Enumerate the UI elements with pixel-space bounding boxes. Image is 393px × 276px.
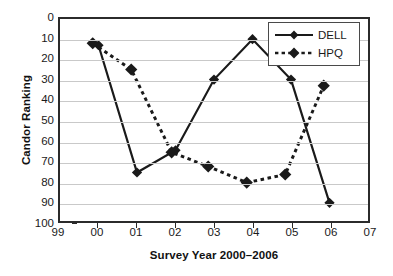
chart-figure: Candor Ranking 0102030405060708090100 99… <box>0 0 393 276</box>
x-axis-ticks: 990001020304050607 <box>58 226 370 242</box>
y-tick-label: 80 <box>20 176 54 187</box>
y-tick-label: 10 <box>20 32 54 43</box>
legend-label-hpq: HPQ <box>314 47 343 59</box>
gridline <box>60 81 368 82</box>
x-tick-mark <box>253 223 254 228</box>
y-tick-label: 90 <box>20 197 54 208</box>
legend-item-hpq: HPQ <box>274 44 354 62</box>
y-tick-label: 20 <box>20 53 54 64</box>
y-tick-label: 40 <box>20 94 54 105</box>
data-point-hpq <box>241 177 253 189</box>
y-tick-mark <box>72 223 77 224</box>
x-tick-mark <box>214 223 215 228</box>
y-tick-label: 60 <box>20 135 54 146</box>
x-tick-mark <box>331 223 332 228</box>
y-tick-label: 0 <box>20 12 54 23</box>
y-axis-ticks: 0102030405060708090100 <box>14 17 54 223</box>
data-point-hpq <box>279 168 291 180</box>
legend-swatch-dotted-diamond-icon <box>274 46 314 60</box>
gridline <box>60 143 368 144</box>
x-tick-label: 99 <box>45 226 71 238</box>
legend-label-dell: DELL <box>314 29 347 41</box>
gridline <box>60 163 368 164</box>
x-tick-mark <box>292 223 293 228</box>
data-point-dell <box>324 198 334 208</box>
gridline <box>60 204 368 205</box>
x-tick-label: 07 <box>357 226 383 238</box>
x-tick-mark <box>97 223 98 228</box>
gridline <box>60 184 368 185</box>
y-tick-label: 70 <box>20 156 54 167</box>
x-tick-mark <box>136 223 137 228</box>
gridline <box>60 122 368 123</box>
x-axis-title: Survey Year 2000–2006 <box>58 249 370 261</box>
y-tick-label: 50 <box>20 115 54 126</box>
data-point-dell <box>132 167 142 177</box>
y-tick-label: 30 <box>20 73 54 84</box>
gridline <box>60 101 368 102</box>
legend-item-dell: DELL <box>274 26 354 44</box>
chart-legend: DELL HPQ <box>268 22 360 66</box>
x-tick-mark <box>175 223 176 228</box>
data-point-hpq <box>125 63 137 75</box>
legend-swatch-solid-diamond-icon <box>274 28 314 42</box>
